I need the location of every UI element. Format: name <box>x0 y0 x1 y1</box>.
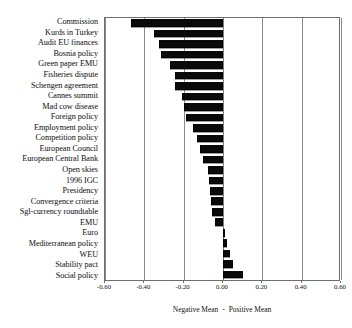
bar-row <box>105 81 339 91</box>
bar-row <box>105 123 339 133</box>
bar-row <box>105 39 339 49</box>
x-tick-label: 0.40 <box>295 284 307 291</box>
bar-row <box>105 102 339 112</box>
bar-row <box>105 270 339 280</box>
gridline <box>341 18 342 280</box>
bar <box>223 271 243 279</box>
category-label: Green paper EMU <box>0 59 101 70</box>
x-tick-label: -0.60 <box>97 284 111 291</box>
bar <box>223 261 233 269</box>
bar-row <box>105 133 339 143</box>
bar <box>175 82 223 90</box>
x-tick-label: -0.20 <box>176 284 190 291</box>
bar-row <box>105 91 339 101</box>
category-label: Foreign policy <box>0 112 101 123</box>
category-label: European Council <box>0 144 101 155</box>
bar <box>182 93 223 101</box>
x-axis-caption: Negative Mean-Positive Mean <box>104 306 340 313</box>
category-label: WEU <box>0 249 101 260</box>
bar-chart: CommissionKurds in TurkeyAudit EU financ… <box>0 0 352 328</box>
bar-row <box>105 238 339 248</box>
bar-row <box>105 259 339 269</box>
bar-row <box>105 165 339 175</box>
category-label: Competition policy <box>0 133 101 144</box>
caption-separator: - <box>218 305 228 314</box>
x-tick-label: 0.00 <box>216 284 228 291</box>
bar-row <box>105 70 339 80</box>
bar <box>209 177 223 185</box>
category-label: Presidency <box>0 186 101 197</box>
bar <box>215 219 223 227</box>
bar-row <box>105 186 339 196</box>
category-axis-labels: CommissionKurds in TurkeyAudit EU financ… <box>0 17 101 281</box>
bar-row <box>105 207 339 217</box>
category-label: 1996 IGC <box>0 175 101 186</box>
x-tick-label: 0.20 <box>255 284 267 291</box>
category-label: Fisheries dispute <box>0 70 101 81</box>
category-label: Schengen agreement <box>0 80 101 91</box>
category-label: Stability pact <box>0 260 101 271</box>
bar <box>203 156 223 164</box>
bar-row <box>105 28 339 38</box>
bar <box>186 114 223 122</box>
bar <box>170 61 223 69</box>
bar <box>184 103 223 111</box>
category-label: Audit EU finances <box>0 38 101 49</box>
positive-mean-label: Positive Mean <box>229 305 272 314</box>
category-label: EMU <box>0 218 101 229</box>
category-label: Mediterranean policy <box>0 239 101 250</box>
category-label: Bosnia policy <box>0 49 101 60</box>
category-label: Commission <box>0 17 101 28</box>
bar <box>223 229 225 237</box>
bar-row <box>105 228 339 238</box>
bar <box>200 145 223 153</box>
bar-row <box>105 175 339 185</box>
bar <box>193 124 223 132</box>
bar-row <box>105 154 339 164</box>
bar <box>154 30 223 38</box>
bar-row <box>105 60 339 70</box>
category-label: Sgl-currency roundtable <box>0 207 101 218</box>
bar-row <box>105 249 339 259</box>
category-label: Open skies <box>0 165 101 176</box>
bar <box>161 51 223 59</box>
category-label: Kurds in Turkey <box>0 28 101 39</box>
x-axis: -0.60-0.40-0.200.000.200.400.60 <box>104 281 340 297</box>
bar-row <box>105 49 339 59</box>
category-label: Euro <box>0 228 101 239</box>
bar-row <box>105 217 339 227</box>
category-label: Cannes summit <box>0 91 101 102</box>
category-label: Convergence criteria <box>0 197 101 208</box>
bar-row <box>105 18 339 28</box>
category-label: European Central Bank <box>0 154 101 165</box>
bar <box>210 187 223 195</box>
bar-row <box>105 196 339 206</box>
category-label: Mad cow disease <box>0 102 101 113</box>
bar <box>223 250 230 258</box>
bar <box>197 135 223 143</box>
plot-area <box>104 17 340 281</box>
bar-series <box>105 18 339 280</box>
bar <box>223 240 227 248</box>
bar <box>212 208 223 216</box>
negative-mean-label: Negative Mean <box>173 305 218 314</box>
bar <box>159 40 223 48</box>
bar <box>175 72 223 80</box>
x-tick-label: -0.40 <box>136 284 150 291</box>
category-label: Employment policy <box>0 123 101 134</box>
bar-row <box>105 144 339 154</box>
bar <box>131 19 223 27</box>
bar <box>211 198 223 206</box>
x-tick-label: 0.60 <box>334 284 346 291</box>
bar <box>208 166 223 174</box>
category-label: Social policy <box>0 271 101 282</box>
bar-row <box>105 112 339 122</box>
